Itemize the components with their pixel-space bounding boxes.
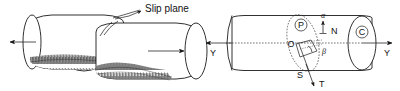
cross-section-circle-label: C — [359, 27, 366, 37]
right-panel-stress-diagram: P C O α N β — [206, 11, 392, 89]
left-panel-shear-fracture: Slip plane — [10, 3, 207, 80]
beta-label: β — [321, 47, 326, 56]
figure-canvas: Slip plane — [0, 0, 400, 91]
force-label: T — [319, 79, 325, 89]
normal-label: N — [331, 26, 338, 36]
slip-plane-label: Slip plane — [145, 3, 189, 14]
origin-label: O — [287, 39, 294, 49]
shear-point-label: S — [297, 70, 303, 80]
axis-right-label: Y — [384, 48, 390, 58]
slip-plane-circle-label: P — [298, 20, 304, 30]
axis-left-label: Y — [210, 48, 216, 58]
